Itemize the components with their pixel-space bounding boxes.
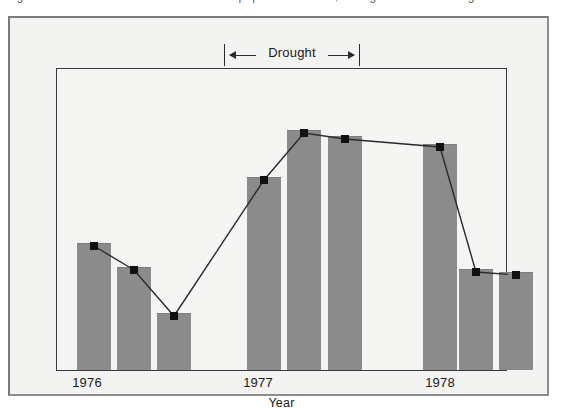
data-point-marker-1976-c: [170, 312, 178, 320]
data-point-marker-1976-a: [90, 242, 98, 250]
drought-range-annotation: Drought: [224, 44, 360, 66]
data-point-marker-1978-b: [472, 268, 480, 276]
bar-1977-a: [247, 177, 281, 370]
x-tick-label-1977: 1977: [213, 375, 303, 390]
drought-label: Drought: [224, 45, 360, 60]
data-point-marker-1977-a: [260, 176, 268, 184]
x-axis-title: Year: [56, 396, 507, 408]
x-tick-label-1976: 1976: [42, 375, 132, 390]
data-point-marker-1977-c: [341, 135, 349, 143]
figure-border: Drought Index of seed size and hardiness…: [8, 16, 549, 396]
x-tick-label-1978: 1978: [395, 375, 485, 390]
bar-1976-a: [77, 243, 111, 370]
bar-1978-a: [423, 144, 457, 370]
figure-caption-text: Figure Seed size and hardiness of a finc…: [6, 0, 485, 3]
bar-1978-c: [499, 272, 533, 370]
bar-1976-b: [117, 267, 151, 370]
data-point-marker-1977-b: [300, 129, 308, 137]
bar-1977-b: [287, 130, 321, 370]
plot-frame: [56, 68, 507, 371]
bar-1977-c: [328, 136, 362, 370]
figure-caption-sliver: Figure Seed size and hardiness of a finc…: [0, 0, 564, 12]
plot-area: [57, 69, 506, 370]
data-point-marker-1976-b: [130, 266, 138, 274]
bar-1978-b: [459, 269, 493, 370]
bar-1976-c: [157, 313, 191, 370]
data-point-marker-1978-a: [436, 143, 444, 151]
data-point-marker-1978-c: [512, 271, 520, 279]
